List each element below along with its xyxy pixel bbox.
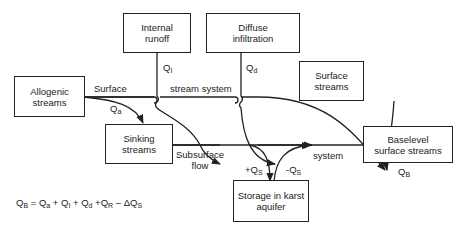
- storage-karst-aquifer-label: Storage in karst aquifer: [236, 190, 306, 212]
- q-b-label: QB: [398, 166, 410, 180]
- baselevel-surface-streams-box: Baselevel surface streams: [363, 126, 453, 163]
- baselevel-surface-streams-label: Baselevel surface streams: [372, 134, 444, 156]
- subsurface-flow-label: Subsurface flow: [176, 149, 224, 171]
- internal-runoff-label: Internal runoff: [132, 22, 182, 44]
- water-balance-equation: QB = Qa + QI + Qd +QR – ΔQS: [16, 197, 142, 211]
- allogenic-streams-box: Allogenic streams: [14, 76, 85, 117]
- q-d-label: Qd: [246, 62, 257, 76]
- diffuse-infiltration-box: Diffuse infiltration: [206, 13, 300, 53]
- plus-q-s-label: +QS: [245, 164, 263, 178]
- q-i-label: QI: [163, 62, 172, 76]
- system-label: system: [313, 150, 343, 161]
- surface-streams-label: Surface streams: [309, 70, 354, 92]
- minus-q-s-label: -QS: [286, 164, 301, 178]
- q-a-label: Qa: [110, 103, 121, 117]
- internal-runoff-box: Internal runoff: [123, 13, 191, 53]
- storage-karst-aquifer-box: Storage in karst aquifer: [233, 180, 309, 222]
- surface-label: Surface: [94, 83, 127, 94]
- stream-system-label: stream system: [170, 83, 232, 94]
- surface-streams-box: Surface streams: [299, 61, 364, 101]
- sinking-streams-label: Sinking streams: [114, 133, 164, 155]
- allogenic-streams-label: Allogenic streams: [22, 86, 77, 108]
- sinking-streams-box: Sinking streams: [105, 124, 173, 164]
- diffuse-infiltration-label: Diffuse infiltration: [223, 22, 283, 44]
